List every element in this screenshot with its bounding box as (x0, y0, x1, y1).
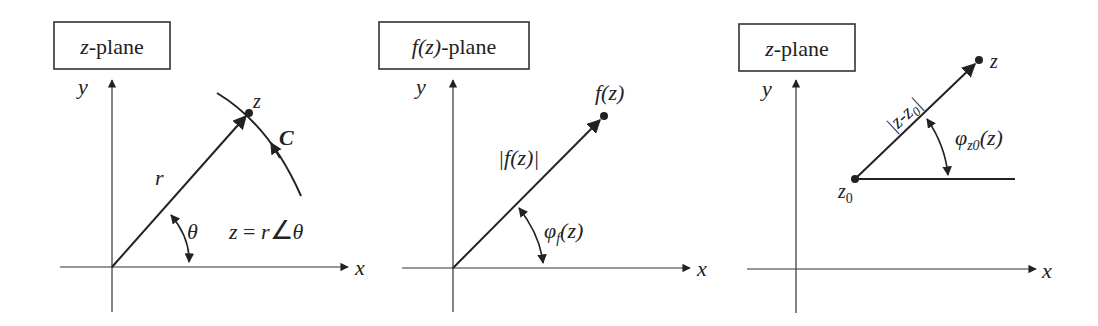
vector-r (112, 116, 246, 267)
point-z (975, 56, 983, 64)
title-box: z-plane (54, 22, 170, 69)
polar-equation: z = r∠θ (228, 216, 304, 245)
y-axis-label: y (76, 74, 88, 99)
angle-phi-label: φf(z) (544, 218, 583, 246)
title-suffix: -plane (89, 34, 144, 59)
point-fz (600, 112, 608, 120)
svg-text:z-plane: z-plane (764, 36, 829, 61)
svg-text:z-plane: z-plane (79, 34, 144, 59)
title-suffix: -plane (774, 36, 829, 61)
x-axis-label: x (1041, 258, 1052, 283)
title-box: f(z)-plane (379, 22, 529, 69)
panel-z-plane-offset: z-plane y x z z0 |z-z0| φz0(z) (739, 24, 1052, 313)
curve-label: C (279, 125, 294, 150)
angle-phi-label: φz0(z) (955, 125, 1003, 153)
point-z (245, 109, 253, 117)
y-axis-label: y (760, 76, 772, 101)
complex-plane-diagram: z-plane y x C z r θ z = r∠θ f(z)-plane (0, 0, 1098, 326)
title-variable: f(z) (412, 34, 441, 59)
angle-arc (519, 208, 543, 263)
point-z-label: z (989, 50, 998, 72)
x-axis-label: x (696, 256, 707, 281)
point-z-label: z (252, 90, 261, 112)
y-axis-label: y (414, 74, 426, 99)
title-box: z-plane (739, 24, 855, 71)
x-axis-label: x (354, 255, 365, 280)
point-fz-label: f(z) (595, 80, 624, 105)
panel-fz-plane: f(z)-plane y x f(z) |f(z)| φf(z) (379, 22, 707, 312)
title-suffix: -plane (441, 34, 496, 59)
angle-theta-label: θ (187, 219, 198, 244)
angle-arc (927, 119, 948, 175)
title-variable: z (79, 34, 89, 59)
magnitude-label: |f(z)| (498, 145, 539, 170)
point-z0-label: z0 (837, 180, 853, 206)
vector-fz (453, 120, 600, 268)
vector-z-minus-z0 (855, 64, 975, 179)
panel-z-plane-polar: z-plane y x C z r θ z = r∠θ (54, 22, 365, 312)
vector-r-label: r (155, 165, 164, 190)
title-variable: z (764, 36, 774, 61)
svg-text:f(z)-plane: f(z)-plane (412, 34, 496, 59)
point-z0 (851, 175, 859, 183)
